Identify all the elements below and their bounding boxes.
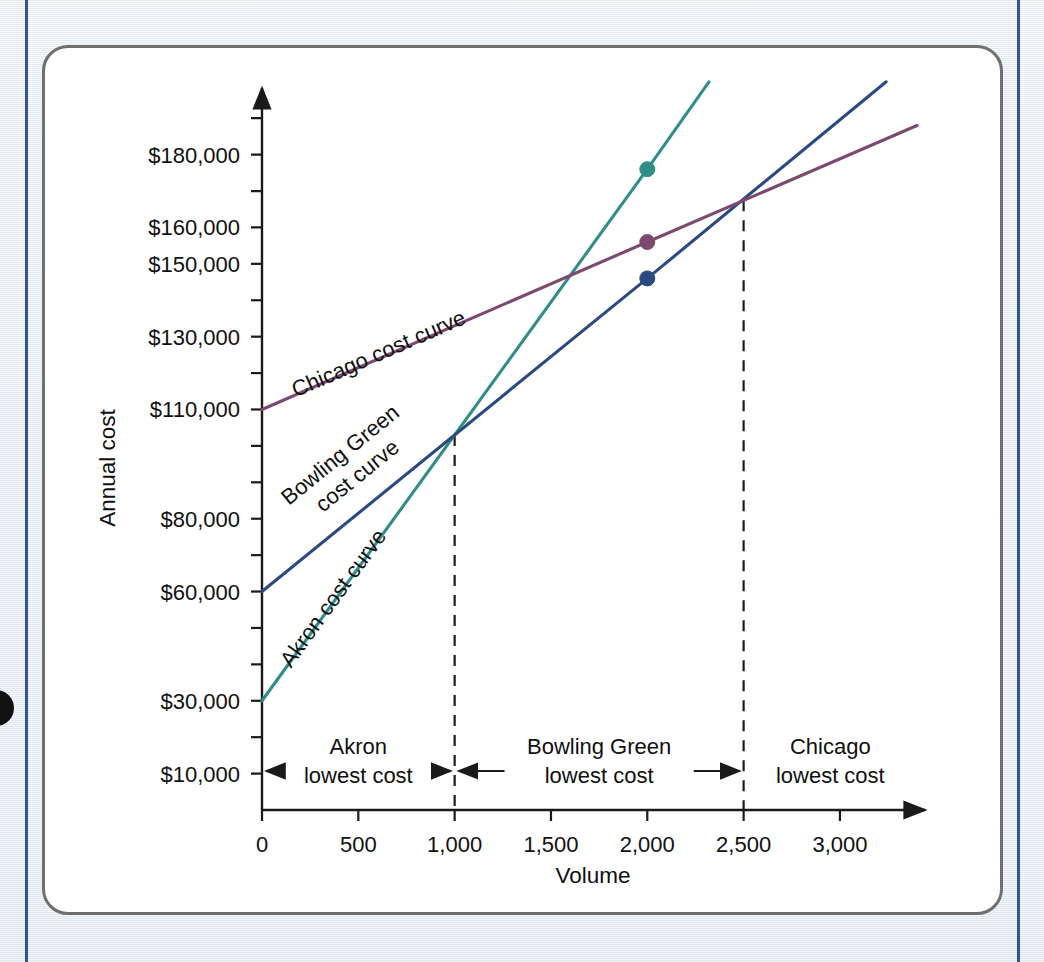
x-tick-label: 1,000 [427,832,482,857]
breakeven-drop-lines [455,200,744,810]
curve-label-akron: Akron cost curve [275,524,391,671]
y-tick-label: $30,000 [160,689,240,714]
region-akron-label-line2: lowest cost [304,763,413,788]
y-tick-label: $60,000 [160,580,240,605]
data-point-chicago [640,235,655,250]
x-tick-label: 3,000 [812,832,867,857]
y-tick-label: $180,000 [148,143,240,168]
y-tick-label: $160,000 [148,215,240,240]
region-bowling-label-line1: Bowling Green [527,734,671,759]
lowest-cost-regions: Akronlowest costBowling Greenlowest cost… [266,734,885,788]
left-margin-rule [25,0,28,962]
data-point-bowling [640,271,655,286]
y-tick-label: $110,000 [150,397,240,422]
region-akron-label-line1: Akron [330,734,387,759]
x-tick-label: 0 [256,832,268,857]
x-axis-tick-labels: 05001,0001,5002,0002,5003,000 [256,832,868,857]
y-axis-tick-labels: $180,000$160,000$150,000$130,000$110,000… [148,143,240,787]
y-tick-label: $80,000 [160,507,240,532]
cost-curve-bowling [262,82,886,592]
figure-root: $180,000$160,000$150,000$130,000$110,000… [0,0,1044,962]
y-tick-label: $130,000 [148,325,240,350]
x-tick-label: 2,000 [620,832,675,857]
cost-curve-labels: Chicago cost curveBowling Greencost curv… [275,305,469,672]
data-point-akron [640,162,655,177]
region-chicago-label-line2: lowest cost [776,763,885,788]
x-axis-title: Volume [555,863,630,888]
right-margin-rule [1017,0,1020,962]
y-axis-title: Annual cost [95,408,120,526]
region-chicago-label-line1: Chicago [790,734,871,759]
x-tick-label: 1,500 [523,832,578,857]
x-tick-label: 2,500 [716,832,771,857]
cost-curves [262,82,917,701]
region-bowling-label-line2: lowest cost [545,763,654,788]
cost-curve-chart: $180,000$160,000$150,000$130,000$110,000… [45,48,1000,912]
y-tick-label: $150,000 [148,252,240,277]
cost-curve-markers [640,162,655,286]
y-tick-label: $10,000 [160,762,240,787]
chart-card: $180,000$160,000$150,000$130,000$110,000… [42,45,1003,915]
x-axis-ticks [262,810,840,821]
y-axis-ticks [251,118,262,773]
curve-label-chicago: Chicago cost curve [288,305,470,403]
x-tick-label: 500 [340,832,377,857]
